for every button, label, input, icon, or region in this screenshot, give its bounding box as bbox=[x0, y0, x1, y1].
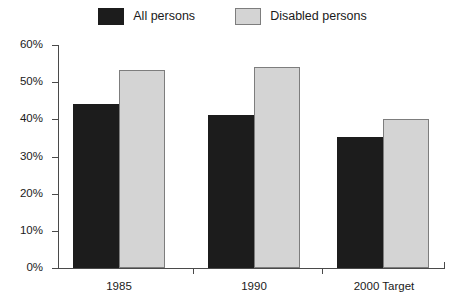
bar-disabled-persons-1985 bbox=[119, 70, 165, 268]
y-tick-label-20: 20% bbox=[20, 188, 43, 200]
x-axis-label-2000-target: 2000 Target bbox=[354, 281, 415, 293]
legend-swatch-disabled-persons-icon bbox=[235, 8, 261, 25]
bar-all-persons-1985 bbox=[73, 104, 119, 268]
x-tick-1 bbox=[193, 268, 194, 274]
y-tick-0: 0% bbox=[52, 268, 59, 269]
y-tick-label-30: 30% bbox=[20, 151, 43, 163]
bar-all-persons-2000-target bbox=[337, 137, 383, 268]
x-axis-label-1985: 1985 bbox=[106, 281, 132, 293]
y-tick-10: 10% bbox=[52, 231, 59, 232]
chart-legend: All persons Disabled persons bbox=[0, 8, 465, 25]
legend-label-disabled-persons: Disabled persons bbox=[270, 10, 367, 23]
y-tick-30: 30% bbox=[52, 157, 59, 158]
y-tick-label-0: 0% bbox=[26, 262, 43, 274]
y-tick-20: 20% bbox=[52, 194, 59, 195]
bar-chart: All persons Disabled persons 60% 50% 40%… bbox=[0, 0, 465, 304]
x-tick-3 bbox=[444, 262, 445, 269]
y-tick-60: 60% bbox=[52, 45, 59, 46]
legend-swatch-all-persons-icon bbox=[98, 8, 124, 25]
legend-label-all-persons: All persons bbox=[133, 10, 195, 23]
bar-all-persons-1990 bbox=[208, 115, 254, 268]
y-tick-label-40: 40% bbox=[20, 113, 43, 125]
bar-disabled-persons-2000-target bbox=[383, 119, 429, 268]
x-axis-label-1990: 1990 bbox=[241, 281, 267, 293]
legend-item-all-persons: All persons bbox=[98, 8, 195, 25]
legend-item-disabled-persons: Disabled persons bbox=[235, 8, 367, 25]
y-tick-50: 50% bbox=[52, 82, 59, 83]
y-tick-label-50: 50% bbox=[20, 76, 43, 88]
plot-area: 60% 50% 40% 30% 20% 10% 0% bbox=[58, 45, 445, 269]
y-tick-label-10: 10% bbox=[20, 225, 43, 237]
y-tick-40: 40% bbox=[52, 119, 59, 120]
y-tick-label-60: 60% bbox=[20, 39, 43, 51]
bar-disabled-persons-1990 bbox=[254, 67, 300, 268]
x-tick-2 bbox=[322, 268, 323, 274]
x-axis-line bbox=[58, 268, 445, 269]
